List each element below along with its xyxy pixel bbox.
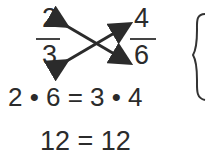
result-equation: 12 = 12 <box>40 128 131 155</box>
cross-multiplication-equation: 2 • 6 = 3 • 4 <box>8 84 143 110</box>
right-curly-brace-icon <box>193 14 205 100</box>
